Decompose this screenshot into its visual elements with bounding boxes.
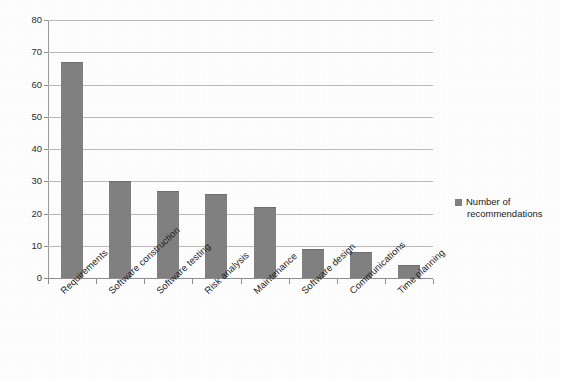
x-tick [192,279,193,284]
bar [61,62,83,278]
x-tick [385,279,386,284]
y-tick-60 [44,85,48,86]
x-tick [241,279,242,284]
plot-area [48,20,433,278]
y-axis-tick-label: 80 [14,15,42,25]
gridline-60 [48,85,433,86]
y-axis-tick-label: 10 [14,241,42,251]
gridline-70 [48,52,433,53]
gridline-10 [48,246,433,247]
y-tick-80 [44,20,48,21]
cut-off-header-text: ....... ... .. .. ......... .. ..... ...… [70,0,194,2]
legend-swatch-icon [455,199,462,206]
x-tick [96,279,97,284]
bar [205,194,227,278]
y-axis-tick-label: 0 [14,273,42,283]
x-tick [144,279,145,284]
y-tick-40 [44,149,48,150]
y-axis-tick-label: 30 [14,176,42,186]
x-tick [433,279,434,284]
y-axis-tick-label: 70 [14,47,42,57]
bar [109,181,131,278]
y-axis-labels: 80706050403020100 [8,0,42,379]
cut-off-header: ....... ... .. .. ......... .. ..... ...… [0,0,561,9]
x-tick [337,279,338,284]
y-tick-10 [44,246,48,247]
y-axis-tick-label: 40 [14,144,42,154]
y-tick-50 [44,117,48,118]
y-tick-30 [44,181,48,182]
x-tick [48,279,49,284]
y-axis-tick-label: 50 [14,112,42,122]
gridline-20 [48,214,433,215]
gridline-30 [48,181,433,182]
y-tick-20 [44,214,48,215]
gridline-80 [48,20,433,21]
y-axis-tick-label: 20 [14,209,42,219]
legend-label-line2: recommendations [466,208,543,220]
legend-label: Number of recommendations [466,196,543,220]
x-tick [289,279,290,284]
gridline-50 [48,117,433,118]
chart-legend: Number of recommendations [455,196,559,220]
gridline-40 [48,149,433,150]
y-tick-70 [44,52,48,53]
legend-label-line1: Number of [466,196,510,207]
chart-page: ....... ... .. .. ......... .. ..... ...… [0,0,561,379]
y-axis-tick-label: 60 [14,80,42,90]
